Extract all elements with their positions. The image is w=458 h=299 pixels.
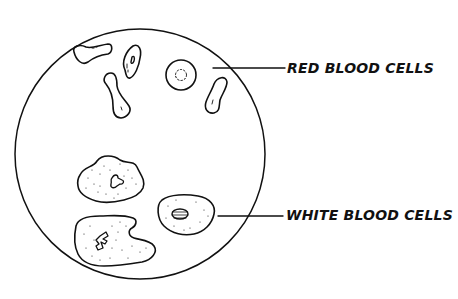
microscope-field-circle — [15, 29, 265, 279]
striped-nucleus — [172, 209, 188, 219]
red-blood-cell-1 — [74, 44, 112, 63]
white-blood-cells-label: WHITE BLOOD CELLS — [286, 207, 453, 223]
dotted-center — [176, 70, 187, 81]
red-blood-cell-5 — [205, 78, 227, 113]
red-blood-cell-3 — [166, 60, 196, 90]
red-blood-cells-label: RED BLOOD CELLS — [287, 60, 434, 76]
red-blood-cell-2 — [124, 45, 141, 78]
white-blood-cell-3 — [158, 195, 214, 235]
red-blood-cell-4 — [104, 73, 130, 118]
white-blood-cell-2 — [75, 216, 156, 267]
white-blood-cell-1 — [78, 156, 144, 203]
blood-cells-diagram — [0, 0, 458, 299]
